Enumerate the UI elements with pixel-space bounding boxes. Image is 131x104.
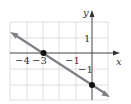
y-tick-1: 1	[84, 33, 90, 44]
y-axis-arrow-icon	[90, 10, 95, 17]
x-tick-neg4: −4	[15, 55, 30, 66]
coordinate-plane: y x −4 −3 −1 1 −1	[0, 0, 131, 104]
x-tick-neg3: −3	[32, 55, 47, 66]
x-axis-label: x	[116, 56, 122, 67]
y-tick-neg1: −1	[78, 64, 93, 75]
x-axis-arrow-icon	[113, 51, 120, 56]
y-axis-label: y	[82, 7, 89, 18]
y-intercept-point	[89, 82, 95, 88]
